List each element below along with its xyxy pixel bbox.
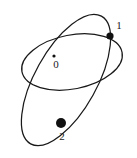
point-label-0: 0 — [53, 58, 59, 70]
ellipses-diagram: 0 1 2 — [0, 0, 137, 158]
point-dot-1 — [106, 32, 113, 39]
tilted-ellipse-curve — [3, 1, 128, 158]
point-label-2: 2 — [59, 130, 65, 142]
point-dot-2 — [56, 118, 66, 128]
figure-container: 0 1 2 — [0, 0, 137, 158]
point-label-1: 1 — [116, 19, 122, 31]
